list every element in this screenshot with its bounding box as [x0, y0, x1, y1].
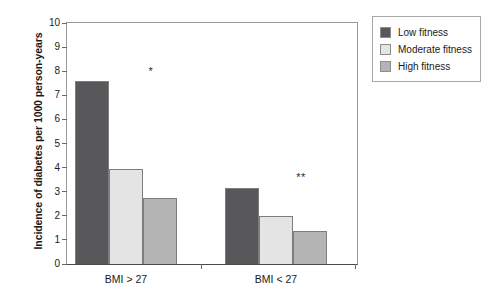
y-tick-label: 9	[54, 41, 60, 53]
legend-label: Low fitness	[398, 27, 448, 38]
bar	[109, 169, 143, 264]
y-tick-label: 2	[54, 210, 60, 222]
legend-swatch	[380, 61, 391, 72]
y-tick-label: 5	[54, 138, 60, 150]
y-tick-mark	[62, 191, 67, 192]
legend-label: High fitness	[398, 61, 450, 72]
legend-swatch	[380, 27, 391, 38]
bar	[143, 198, 177, 264]
y-axis-title: Incidence of diabetes per 1000 person-ye…	[32, 11, 44, 271]
y-tick-label: 0	[54, 258, 60, 270]
y-tick-mark	[62, 239, 67, 240]
y-tick-mark	[62, 215, 67, 216]
chart-legend: Low fitnessModerate fitnessHigh fitness	[372, 16, 481, 82]
y-tick-mark	[62, 47, 67, 48]
significance-mark: **	[296, 172, 306, 183]
x-group-label: BMI < 27	[255, 273, 297, 285]
y-tick-label: 10	[49, 17, 60, 29]
y-tick-mark	[62, 167, 67, 168]
x-group-label: BMI > 27	[105, 273, 147, 285]
y-tick-label: 8	[54, 65, 60, 77]
y-tick-mark	[62, 264, 67, 265]
legend-item: High fitness	[380, 58, 472, 74]
legend-item: Moderate fitness	[380, 41, 472, 57]
x-tick-mark	[355, 264, 356, 269]
bar	[75, 81, 109, 264]
y-tick-label: 6	[54, 113, 60, 125]
y-tick-label: 3	[54, 186, 60, 198]
y-tick-mark	[62, 143, 67, 144]
bar	[259, 216, 293, 264]
significance-mark: *	[149, 66, 154, 77]
y-tick-mark	[62, 95, 67, 96]
y-tick-mark	[62, 23, 67, 24]
plot-area: 109876543210 BMI > 27BMI < 27 ***	[66, 22, 358, 265]
chart-figure: Incidence of diabetes per 1000 person-ye…	[0, 0, 488, 294]
y-tick-label: 7	[54, 89, 60, 101]
y-tick-mark	[62, 119, 67, 120]
legend-label: Moderate fitness	[398, 44, 472, 55]
legend-swatch	[380, 44, 391, 55]
y-tick-mark	[62, 71, 67, 72]
legend-item: Low fitness	[380, 24, 472, 40]
y-tick-label: 4	[54, 162, 60, 174]
x-tick-mark	[201, 264, 202, 269]
y-tick-label: 1	[54, 234, 60, 246]
bar	[225, 188, 259, 264]
bar	[293, 231, 327, 264]
plot-inner: 109876543210 BMI > 27BMI < 27 ***	[67, 23, 357, 264]
